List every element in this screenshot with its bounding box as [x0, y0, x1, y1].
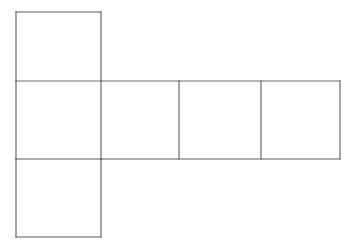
net-face-row-cell-3 — [179, 81, 261, 159]
net-face-top-flap — [16, 12, 101, 81]
net-face-row-cell-4 — [261, 81, 340, 159]
cube-net-figure — [0, 0, 356, 246]
net-face-row-cell-2 — [101, 81, 179, 159]
net-face-row-cell-1 — [16, 81, 101, 159]
cube-net-svg — [0, 0, 356, 246]
net-face-bottom-flap — [16, 159, 101, 237]
